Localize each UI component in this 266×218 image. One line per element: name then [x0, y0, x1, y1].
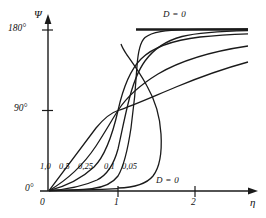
chart-canvas [0, 0, 266, 218]
curve-label-0-5: 0,5 [59, 161, 70, 171]
x-axis-label: η [250, 196, 255, 208]
curve-label-0-1: 0,1 [104, 161, 115, 171]
y-tick-90: 90° [14, 103, 27, 113]
curve-label-0-05: 0,05 [122, 161, 137, 171]
x-tick-1: 1 [114, 197, 119, 207]
curve-d-10 [49, 62, 248, 191]
curve-label-1-0: 1,0 [40, 161, 51, 171]
curve-label-0-25: 0,25 [78, 161, 93, 171]
y-tick-180: 180° [8, 23, 26, 33]
y-tick-0: 0° [25, 183, 34, 193]
x-tick-0: 0 [40, 197, 45, 207]
annotation-d-zero-top: D = 0 [163, 9, 186, 19]
y-axis-label: Ψ [34, 8, 42, 20]
phase-angle-chart: Ψ η 180° 90° 0° 0 1 2 D = 0 D = 0 1,0 0,… [0, 0, 266, 218]
axis-lines [40, 14, 258, 194]
x-tick-2: 2 [191, 197, 196, 207]
annotation-d-zero-bottom: D = 0 [156, 175, 179, 185]
